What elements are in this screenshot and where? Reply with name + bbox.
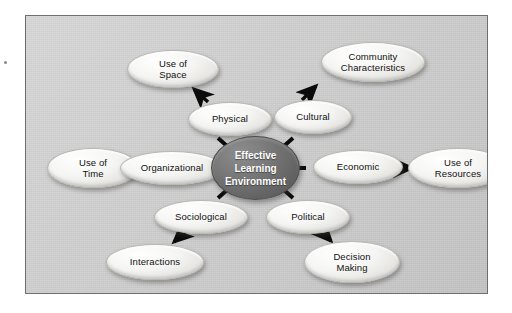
diagram-panel: Use ofSpace CommunityCharacteristics Use… <box>25 15 488 294</box>
node-decision-making[interactable]: DecisionMaking <box>304 241 400 283</box>
node-label: Organizational <box>138 162 207 174</box>
node-label: DecisionMaking <box>330 251 373 274</box>
node-label: Physical <box>209 113 251 125</box>
node-label: Economic <box>334 161 383 173</box>
node-label: CommunityCharacteristics <box>338 51 408 74</box>
node-label: Political <box>288 211 328 223</box>
node-cultural[interactable]: Cultural <box>274 100 352 134</box>
node-label: Use ofSpace <box>156 58 190 81</box>
node-label: Use ofTime <box>76 157 110 180</box>
node-economic[interactable]: Economic <box>313 150 403 184</box>
node-political[interactable]: Political <box>266 200 350 234</box>
node-community-characteristics[interactable]: CommunityCharacteristics <box>321 42 425 82</box>
node-sociological[interactable]: Sociological <box>154 200 248 234</box>
node-label: Cultural <box>293 111 333 123</box>
arrow-physical-to-use-of-space <box>194 89 208 102</box>
node-label: Interactions <box>127 256 183 268</box>
node-effective-learning-environment[interactable]: EffectiveLearningEnvironment <box>211 136 300 200</box>
node-organizational[interactable]: Organizational <box>120 151 224 185</box>
stray-speck <box>4 61 7 64</box>
diagram-canvas: Use ofSpace CommunityCharacteristics Use… <box>0 0 512 313</box>
arrow-cultural-to-community-characteristics <box>302 86 316 100</box>
center-node-label: EffectiveLearningEnvironment <box>225 149 286 188</box>
node-interactions[interactable]: Interactions <box>106 244 204 280</box>
node-label: Sociological <box>172 211 230 223</box>
node-use-of-space[interactable]: Use ofSpace <box>127 50 219 88</box>
node-physical[interactable]: Physical <box>188 102 272 136</box>
node-label: Use ofResources <box>432 157 484 180</box>
